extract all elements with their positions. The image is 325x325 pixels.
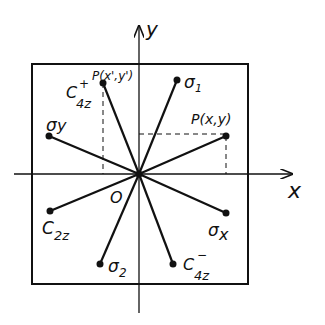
svg-text:2z: 2z bbox=[54, 228, 70, 243]
sigma2-label: σ 2 bbox=[108, 256, 127, 280]
points bbox=[46, 77, 230, 268]
c2z-label: C 2z bbox=[42, 218, 70, 243]
svg-text:+: + bbox=[79, 77, 89, 91]
p-label: P(x,y) bbox=[191, 111, 231, 127]
svg-text:y: y bbox=[56, 116, 67, 135]
sigma-x-label: σ x bbox=[208, 220, 229, 244]
p-prime-label: P(x',y') bbox=[92, 69, 133, 83]
c4z-plus-label: C + 4z bbox=[66, 77, 92, 111]
sigma1-label: σ 1 bbox=[184, 72, 202, 95]
sigma-y-label: σ y bbox=[46, 115, 67, 135]
symmetry-diagram: y x O P(x',y') P(x,y) C + 4z σ 1 σ y C 2… bbox=[0, 0, 325, 325]
y-axis-label: y bbox=[145, 17, 159, 41]
svg-text:C: C bbox=[42, 218, 54, 238]
svg-text:1: 1 bbox=[195, 82, 202, 95]
svg-text:4z: 4z bbox=[194, 268, 210, 283]
svg-text:2: 2 bbox=[119, 266, 127, 280]
x-axis-label: x bbox=[287, 178, 302, 203]
origin-label: O bbox=[110, 188, 123, 207]
svg-text:x: x bbox=[218, 225, 229, 244]
svg-text:−: − bbox=[197, 248, 207, 262]
svg-text:4z: 4z bbox=[76, 96, 92, 111]
c4z-minus-label: C − 4z bbox=[183, 248, 210, 283]
